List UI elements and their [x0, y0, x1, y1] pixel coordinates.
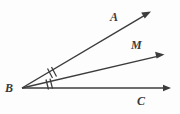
ray-ba-line: [22, 15, 146, 88]
ray-bc: [22, 85, 171, 91]
figure-canvas: [0, 0, 180, 114]
ray-bm-line: [22, 56, 159, 88]
ray-label-c: C: [137, 95, 145, 107]
ray-label-a: A: [110, 11, 118, 23]
ray-bc-arrowhead: [163, 85, 171, 91]
ray-label-m: M: [131, 39, 142, 51]
geometry-figure: B A M C: [0, 0, 180, 114]
vertex-label-b: B: [5, 82, 13, 94]
ray-bm-arrowhead: [155, 52, 164, 59]
ray-bm: [22, 52, 165, 88]
ray-ba-arrowhead: [141, 12, 151, 19]
angle-mark-mbc-tick-2: [50, 79, 53, 89]
